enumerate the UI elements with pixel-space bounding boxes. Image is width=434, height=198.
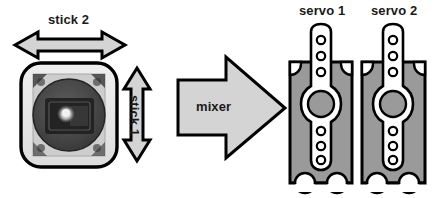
servo2-label: servo 2 [371, 3, 417, 18]
stick2-label: stick 2 [48, 12, 89, 27]
stick2-double-arrow-shape [15, 32, 125, 58]
servo-2-horn-hole [389, 52, 397, 60]
servo-1-horn-hole [317, 142, 325, 150]
joystick-module [21, 63, 117, 167]
joystick-stick-tip [62, 109, 70, 117]
servo-2-horn-hole [389, 142, 397, 150]
servo-1-horn-hub [308, 91, 334, 117]
stick2-arrow [15, 32, 125, 58]
servo-1-horn-hole [317, 156, 325, 164]
servo-2-horn-hub [380, 91, 406, 117]
servo-1-horn-hole [317, 68, 325, 76]
servo-2-base-mask [362, 184, 425, 192]
servo-1-horn-hole [317, 127, 325, 135]
mixer-arrow [178, 57, 285, 158]
servo-1 [290, 24, 352, 193]
servo-1-horn-hole [317, 36, 325, 44]
servo-2-horn-hole [389, 36, 397, 44]
stick1-label: stick 1 [127, 95, 142, 136]
servo-1-base-mask [290, 184, 352, 192]
servo-2-horn-hole [389, 156, 397, 164]
servo-2-horn-hole [389, 68, 397, 76]
servo1-label: servo 1 [299, 3, 345, 18]
mixer-arrow-shape [178, 57, 285, 158]
diagram-canvas: stick 2 stick 1 mixer servo 1 servo 2 [0, 0, 434, 198]
servo-1-horn-hole [317, 52, 325, 60]
mixer-label: mixer [196, 99, 231, 114]
servo-2-horn-hole [389, 127, 397, 135]
servo-2 [362, 24, 425, 193]
